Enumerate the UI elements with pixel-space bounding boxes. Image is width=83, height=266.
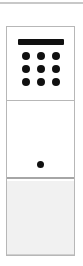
calculator-icon — [18, 39, 64, 88]
keypad-key-dot-icon[interactable] — [37, 65, 45, 73]
keypad-key-dot-icon[interactable] — [52, 52, 60, 60]
keypad-key-dot-icon[interactable] — [52, 65, 60, 73]
keypad-panel[interactable] — [7, 27, 74, 101]
keypad-key-dot-icon[interactable] — [37, 78, 45, 86]
stacked-card — [6, 26, 75, 256]
top-divider — [0, 2, 83, 4]
footer-panel — [7, 181, 74, 255]
keypad-widget — [0, 0, 83, 266]
calculator-display-bar-icon — [18, 39, 64, 45]
keypad-key-dot-icon[interactable] — [37, 52, 45, 60]
indicator-dot-icon — [37, 161, 44, 168]
display-panel[interactable] — [7, 101, 74, 179]
keypad-key-dot-icon[interactable] — [52, 78, 60, 86]
keypad-key-dot-icon[interactable] — [22, 52, 30, 60]
keypad-key-dot-icon[interactable] — [22, 78, 30, 86]
keypad-key-dot-icon[interactable] — [22, 65, 30, 73]
calculator-key-grid — [19, 50, 63, 88]
